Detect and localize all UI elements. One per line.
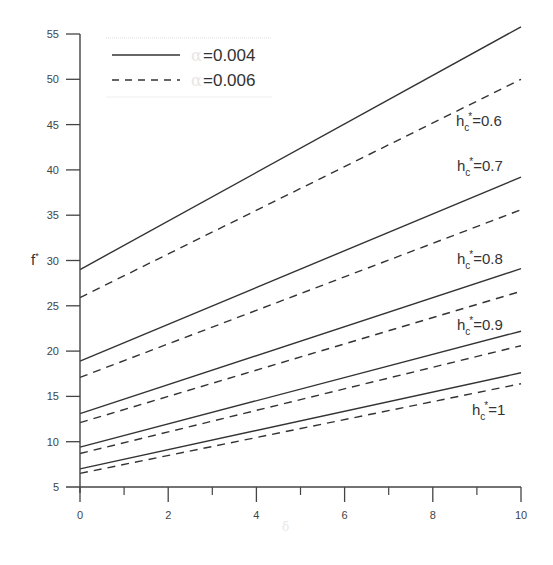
dashed-series-line bbox=[80, 210, 521, 378]
legend: α=0.004α=0.006 bbox=[106, 38, 272, 97]
dashed-series-line bbox=[80, 291, 521, 422]
legend-entry-label: =0.004 bbox=[203, 46, 255, 65]
dashed-series-line bbox=[80, 346, 521, 454]
curve-annotations: hc*=0.6hc*=0.7hc*=0.8hc*=0.9hc*=1 bbox=[456, 111, 505, 422]
legend-entry-label: =0.006 bbox=[203, 71, 255, 90]
solid-series-line bbox=[80, 27, 521, 270]
x-tick-label: 2 bbox=[165, 509, 171, 521]
y-tick-label: 5 bbox=[53, 481, 59, 493]
curve-annotation: hc*=0.9 bbox=[457, 315, 503, 337]
x-tick-label: 8 bbox=[430, 509, 436, 521]
y-tick-label: 55 bbox=[47, 28, 59, 40]
x-tick-label: 10 bbox=[515, 509, 527, 521]
dashed-series-line bbox=[80, 384, 521, 474]
curve-annotation: hc*=0.8 bbox=[457, 249, 503, 271]
solid-series-line bbox=[80, 269, 521, 414]
x-axis-label: δ bbox=[282, 520, 289, 534]
y-tick-label: 10 bbox=[47, 436, 59, 448]
y-tick-label: 45 bbox=[47, 119, 59, 131]
curve-annotation: hc*=0.6 bbox=[456, 111, 502, 133]
x-tick-label: 6 bbox=[342, 509, 348, 521]
dashed-series-line bbox=[80, 79, 521, 297]
y-tick-label: 25 bbox=[47, 300, 59, 312]
legend-alpha-symbol: α bbox=[191, 71, 202, 90]
line-chart: α=0.004α=0.006 5101520253035404550550246… bbox=[0, 0, 553, 565]
solid-series-line bbox=[80, 331, 521, 447]
y-tick-label: 35 bbox=[47, 209, 59, 221]
x-tick-label: 4 bbox=[253, 509, 259, 521]
legend-alpha-symbol: α bbox=[191, 46, 202, 65]
x-tick-label: 0 bbox=[77, 509, 83, 521]
y-tick-label: 15 bbox=[47, 390, 59, 402]
y-axis-label: f* bbox=[31, 251, 39, 268]
y-tick-label: 30 bbox=[47, 255, 59, 267]
curve-annotation: hc*=1 bbox=[472, 400, 505, 422]
solid-series-line bbox=[80, 177, 521, 361]
y-tick-label: 50 bbox=[47, 73, 59, 85]
curve-annotation: hc*=0.7 bbox=[457, 156, 503, 178]
solid-series-line bbox=[80, 373, 521, 469]
y-tick-label: 20 bbox=[47, 345, 59, 357]
series-lines bbox=[80, 27, 521, 474]
y-tick-label: 40 bbox=[47, 164, 59, 176]
